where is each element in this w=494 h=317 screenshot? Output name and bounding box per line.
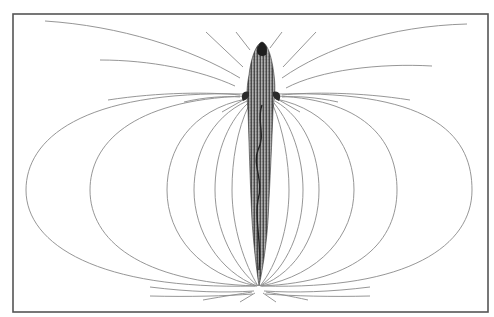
fish-illustration <box>242 42 280 286</box>
field-diagram <box>0 0 494 317</box>
figure-canvas: Electric field lines around an electric … <box>0 0 494 317</box>
right-field-loops <box>260 94 472 286</box>
left-field-loops <box>26 94 258 286</box>
fish-body <box>247 42 275 286</box>
tail-rays <box>150 287 370 302</box>
